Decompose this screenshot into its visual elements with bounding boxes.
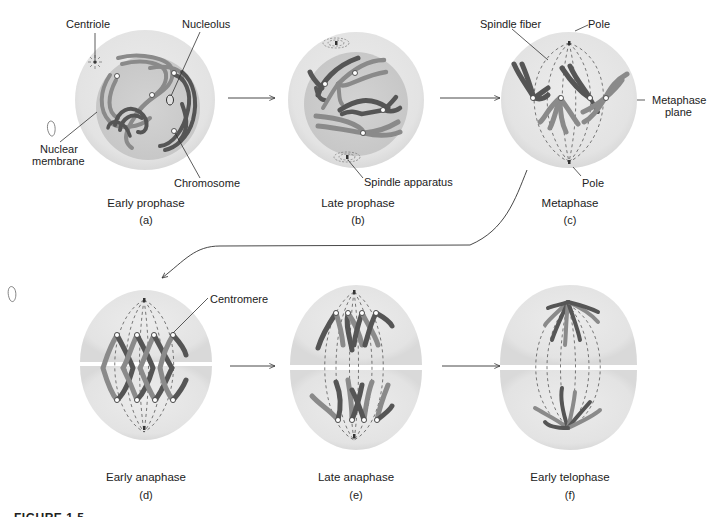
figure-caption: FIGURE 1.5 — [14, 509, 84, 517]
nucleolus-shape — [167, 95, 174, 105]
panel-e-title: Late anaphase — [286, 471, 426, 483]
panel-d-letter: (d) — [126, 489, 166, 501]
label-nucleolus: Nucleolus — [182, 18, 230, 31]
panel-b-letter: (b) — [338, 214, 378, 226]
label-nuclear-membrane-line2: membrane — [32, 155, 85, 168]
label-spindle-fiber: Spindle fiber — [480, 18, 541, 31]
panel-e-letter: (e) — [336, 489, 376, 501]
label-centriole: Centriole — [66, 18, 110, 31]
pole-bottom-centriole — [568, 160, 571, 164]
label-spindle-apparatus: Spindle apparatus — [364, 176, 453, 189]
panel-c-title: Metaphase — [500, 197, 640, 209]
panel-c-cell — [501, 25, 645, 176]
panel-f-letter: (f) — [550, 489, 590, 501]
panel-b-title: Late prophase — [288, 197, 428, 209]
label-chromosome: Chromosome — [174, 177, 240, 190]
panel-d-cell — [8, 287, 212, 440]
panel-f-title: Early telophase — [500, 471, 640, 483]
panel-b-cell — [288, 32, 424, 178]
panel-e-cell — [290, 285, 422, 450]
panel-a-title: Early prophase — [76, 197, 216, 209]
panel-c-letter: (c) — [550, 214, 590, 226]
label-pole-bottom: Pole — [582, 177, 604, 190]
label-metaphase-plane-line2: plane — [665, 106, 692, 119]
pole-top-centriole — [568, 41, 571, 45]
label-pole-top: Pole — [588, 18, 610, 31]
panel-a-letter: (a) — [126, 214, 166, 226]
panel-f-cell — [500, 285, 637, 450]
label-centromere: Centromere — [210, 293, 268, 306]
mitosis-diagram — [0, 0, 719, 517]
panel-d-title: Early anaphase — [76, 471, 216, 483]
